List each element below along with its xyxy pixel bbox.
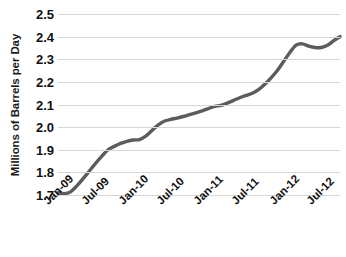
x-axis-tick-label: Jul-10 <box>155 175 187 207</box>
x-axis-tick-labels: Jan-09Jul-09Jan-10Jul-10Jan-11Jul-11Jan-… <box>0 0 346 257</box>
x-axis-tick-label: Jul-11 <box>230 176 261 207</box>
x-axis-tick-label: Jul-09 <box>80 175 112 207</box>
x-axis-tick-label: Jul-12 <box>305 175 337 207</box>
x-axis-tick-label: Jan-12 <box>268 173 302 207</box>
x-axis-tick-label: Jan-10 <box>117 173 151 207</box>
x-axis-tick-label: Jan-11 <box>192 174 225 207</box>
oil-production-line-chart: Millions of Barrels per Day 2.52.42.32.2… <box>0 0 346 257</box>
x-axis-tick-label: Jan-09 <box>42 173 76 207</box>
